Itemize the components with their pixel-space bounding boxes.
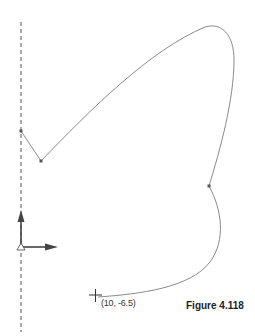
cursor-coordinate-label: (10, -6.5) bbox=[101, 298, 136, 308]
x-axis-arrow-icon bbox=[45, 244, 58, 251]
figure-caption: Figure 4.118 bbox=[186, 300, 244, 311]
origin-axes bbox=[17, 210, 58, 251]
sketch-line-segment[interactable] bbox=[21, 131, 41, 161]
sketch-point-c[interactable] bbox=[208, 185, 211, 188]
sketch-canvas[interactable] bbox=[0, 0, 255, 336]
sketch-point-b[interactable] bbox=[40, 160, 43, 163]
y-axis-arrow-icon bbox=[18, 210, 25, 222]
sketch-spline-lower[interactable] bbox=[98, 186, 220, 297]
sketch-spline-upper[interactable] bbox=[41, 26, 234, 186]
sketch-point-a[interactable] bbox=[20, 130, 23, 133]
